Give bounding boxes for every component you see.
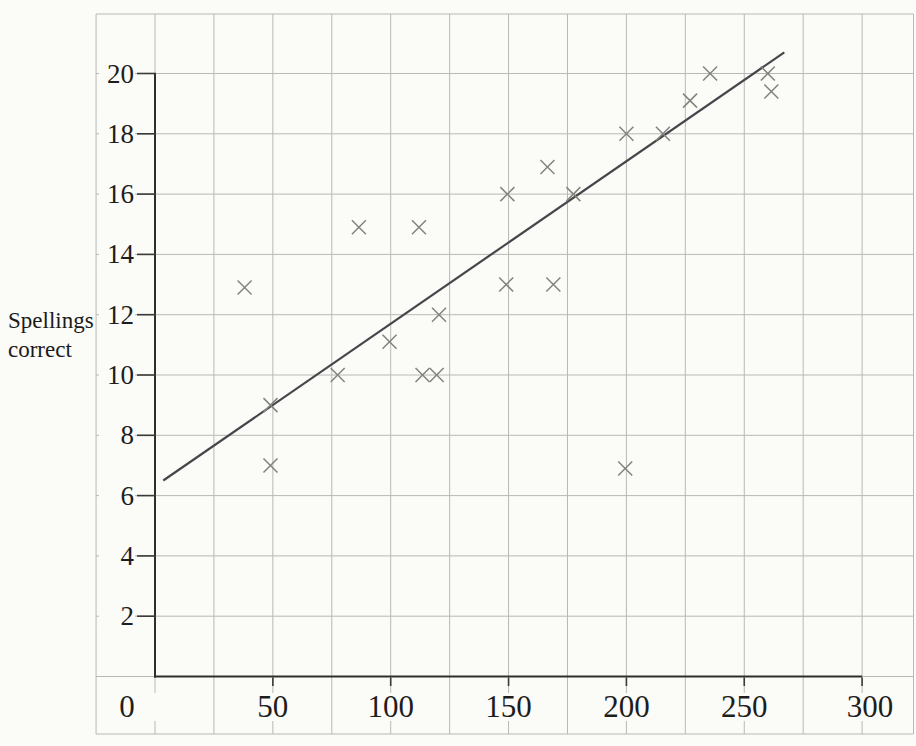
best-fit-line bbox=[163, 52, 784, 480]
data-point-marker bbox=[412, 220, 426, 234]
x-tick-label: 200 bbox=[603, 689, 650, 724]
data-point-marker bbox=[618, 461, 632, 475]
y-tick-label: 16 bbox=[107, 179, 134, 209]
data-point-marker bbox=[263, 398, 277, 412]
y-tick-label: 4 bbox=[121, 541, 135, 571]
x-tick-label: 100 bbox=[367, 689, 414, 724]
data-point-marker bbox=[546, 278, 560, 292]
y-tick-label: 8 bbox=[121, 420, 135, 450]
data-point-marker bbox=[499, 278, 513, 292]
y-tick-label: 18 bbox=[107, 119, 134, 149]
x-tick-label: 50 bbox=[257, 689, 288, 724]
y-tick-label: 12 bbox=[107, 300, 134, 330]
y-tick-label: 20 bbox=[107, 59, 134, 89]
y-tick-label: 2 bbox=[121, 601, 135, 631]
x-tick-label: 150 bbox=[485, 689, 532, 724]
data-point-marker bbox=[540, 160, 554, 174]
y-tick-label: 6 bbox=[121, 481, 135, 511]
data-point-marker bbox=[238, 281, 252, 295]
x-tick-label: 300 bbox=[847, 689, 894, 724]
data-point-marker bbox=[383, 335, 397, 349]
y-tick-label: 14 bbox=[107, 239, 135, 269]
scatter-chart-page: Spellings correct 2018161412108642050100… bbox=[0, 0, 916, 746]
data-point-marker bbox=[263, 458, 277, 472]
data-point-marker bbox=[352, 220, 366, 234]
scatter-plot: 2018161412108642050100150200250300 bbox=[0, 0, 916, 746]
x-tick-label: 0 bbox=[119, 689, 135, 724]
x-tick-label: 250 bbox=[721, 689, 768, 724]
data-point-marker bbox=[764, 85, 778, 99]
y-tick-label: 10 bbox=[107, 360, 134, 390]
